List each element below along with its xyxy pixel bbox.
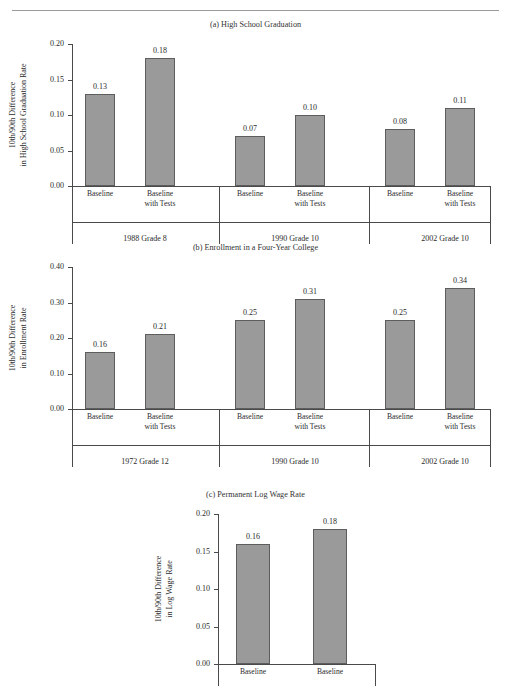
y-tick-mark xyxy=(214,552,218,553)
x-category-label: Baseline xyxy=(220,412,280,422)
bar-value-label: 0.25 xyxy=(378,308,422,317)
chart-c-plot: 0.000.050.100.150.200.16Baseline0.18Base… xyxy=(0,490,511,690)
y-tick-mark xyxy=(214,589,218,590)
x-category-label: Baseline xyxy=(220,189,280,199)
group-label: 2002 Grade 10 xyxy=(385,457,505,466)
group-label: 1990 Grade 10 xyxy=(235,457,355,466)
bar xyxy=(145,58,175,186)
header-rule xyxy=(12,10,499,11)
bar xyxy=(313,529,347,664)
bar-value-label: 0.34 xyxy=(438,276,482,285)
y-axis-title: 10th/90th Differencein Enrollment Rate xyxy=(8,267,32,409)
x-category-label: Baseline xyxy=(70,189,130,199)
x-axis-line xyxy=(72,409,490,410)
y-axis-title-line1: 10th/90th Difference xyxy=(154,514,165,664)
x-category-label: Baseline xyxy=(370,412,430,422)
y-tick-mark xyxy=(68,267,72,268)
group-separator xyxy=(369,409,370,467)
x-category-label: Baseline xyxy=(300,667,360,677)
x-axis-line xyxy=(218,664,375,665)
y-tick-mark xyxy=(68,338,72,339)
group-band-left-edge xyxy=(72,186,73,244)
x-category-label: Baselinewith Tests xyxy=(430,412,490,431)
category-box-right xyxy=(375,664,376,686)
bar-value-label: 0.13 xyxy=(78,82,122,91)
bar xyxy=(295,115,325,186)
y-axis-title: 10th/90th Differencein High School Gradu… xyxy=(8,44,32,186)
x-axis-line xyxy=(72,186,490,187)
y-tick-mark xyxy=(68,374,72,375)
group-separator xyxy=(369,186,370,244)
bar xyxy=(385,320,415,409)
y-tick-mark xyxy=(68,115,72,116)
bar xyxy=(445,288,475,409)
page-header xyxy=(0,0,511,18)
group-label: 1988 Grade 8 xyxy=(85,234,205,243)
bar-value-label: 0.25 xyxy=(228,308,272,317)
bar xyxy=(235,320,265,409)
bar-value-label: 0.21 xyxy=(138,322,182,331)
y-axis-line xyxy=(72,267,73,409)
y-axis-title: 10th/90th Differencein Log Wage Rate xyxy=(154,514,178,664)
y-axis-line xyxy=(72,44,73,186)
y-axis-title-line2: in High School Graduation Rate xyxy=(19,44,30,186)
x-category-label: Baseline xyxy=(223,667,283,677)
bar-value-label: 0.10 xyxy=(288,103,332,112)
group-separator xyxy=(219,186,220,244)
x-category-label: Baselinewith Tests xyxy=(130,189,190,208)
group-band-divider xyxy=(72,222,490,223)
bar xyxy=(85,94,115,186)
group-label: 1972 Grade 12 xyxy=(85,457,205,466)
y-axis-title-line2: in Log Wage Rate xyxy=(165,514,176,664)
bar xyxy=(295,299,325,409)
y-tick-mark xyxy=(68,44,72,45)
group-label: 1990 Grade 10 xyxy=(235,234,355,243)
bar-value-label: 0.18 xyxy=(138,46,182,55)
bar-value-label: 0.08 xyxy=(378,117,422,126)
x-category-label: Baseline xyxy=(70,412,130,422)
bar xyxy=(235,136,265,186)
y-axis-line xyxy=(218,514,219,664)
group-separator xyxy=(219,409,220,467)
bar xyxy=(145,334,175,409)
category-box-left xyxy=(218,664,219,686)
y-axis-title-line1: 10th/90th Difference xyxy=(8,44,19,186)
bar-value-label: 0.16 xyxy=(78,340,122,349)
bar-value-label: 0.18 xyxy=(308,517,352,526)
y-axis-title-line1: 10th/90th Difference xyxy=(8,267,19,409)
bar xyxy=(445,108,475,186)
x-category-label: Baseline xyxy=(370,189,430,199)
group-band-divider xyxy=(72,445,490,446)
y-tick-mark xyxy=(214,627,218,628)
y-tick-mark xyxy=(68,303,72,304)
y-axis-title-line2: in Enrollment Rate xyxy=(19,267,30,409)
group-label: 2002 Grade 10 xyxy=(385,234,505,243)
chart-b-plot: 0.000.100.200.300.400.16Baseline0.21Base… xyxy=(0,243,511,479)
chart-a-plot: 0.000.050.100.150.200.13Baseline0.18Base… xyxy=(0,20,511,256)
y-tick-mark xyxy=(68,80,72,81)
group-band-left-edge xyxy=(72,409,73,467)
x-category-label: Baselinewith Tests xyxy=(280,189,340,208)
y-tick-mark xyxy=(214,514,218,515)
x-category-label: Baselinewith Tests xyxy=(430,189,490,208)
bar xyxy=(85,352,115,409)
bar-value-label: 0.31 xyxy=(288,287,332,296)
bar xyxy=(236,544,270,664)
bar-value-label: 0.11 xyxy=(438,96,482,105)
x-category-label: Baselinewith Tests xyxy=(280,412,340,431)
y-tick-mark xyxy=(68,151,72,152)
bar xyxy=(385,129,415,186)
bar-value-label: 0.16 xyxy=(231,532,275,541)
x-category-label: Baselinewith Tests xyxy=(130,412,190,431)
bar-value-label: 0.07 xyxy=(228,124,272,133)
